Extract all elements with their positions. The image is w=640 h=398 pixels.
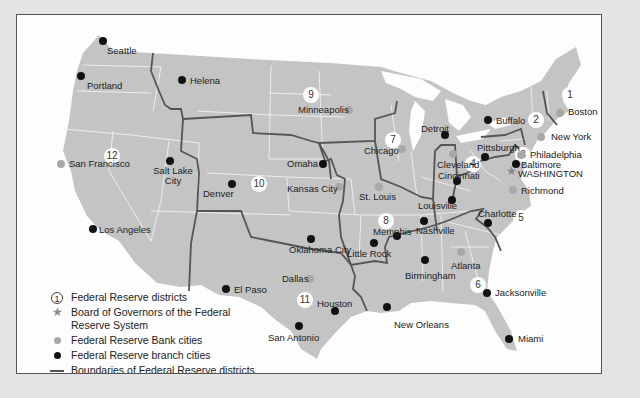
branch-city-dot <box>505 335 513 343</box>
branch-city-dot <box>481 153 489 161</box>
legend-label: Federal Reserve districts <box>71 291 187 304</box>
city-label-omaha[interactable]: Omaha <box>287 159 318 169</box>
city-label-seattle[interactable]: Seattle <box>107 46 137 56</box>
branch-city-dot <box>307 235 315 243</box>
city-label-kansas-city[interactable]: Kansas City <box>287 184 338 194</box>
branch-city-dot <box>319 160 327 168</box>
legend-item-board: ★ Board of Governors of the Federal Rese… <box>49 306 271 332</box>
legend-item-bank-cities: Federal Reserve Bank cities <box>49 334 271 347</box>
city-label-cincinnati[interactable]: Cincinnati <box>438 171 480 181</box>
branch-city-dot <box>484 219 492 227</box>
city-label-birmingham[interactable]: Birmingham <box>405 271 456 281</box>
city-label-buffalo[interactable]: Buffalo <box>496 116 525 126</box>
branch-city-dot <box>295 322 303 330</box>
district-number-1: 1 <box>562 87 578 103</box>
city-label-dallas[interactable]: Dallas <box>282 274 308 284</box>
legend-label: Federal Reserve Bank cities <box>71 334 202 347</box>
city-label-charlotte[interactable]: Charlotte <box>478 209 517 219</box>
city-label-pittsburgh[interactable]: Pittsburgh <box>477 143 520 153</box>
branch-city-dot <box>77 72 85 80</box>
branch-city-dot <box>166 157 174 165</box>
city-label-washington[interactable]: WASHINGTON <box>518 169 583 179</box>
city-label-los-angeles[interactable]: Los Angeles <box>99 225 151 235</box>
branch-city-dot <box>178 76 186 84</box>
branch-city-dot <box>421 256 429 264</box>
legend-label: Board of Governors of the Federal Reserv… <box>71 306 251 332</box>
city-label-chicago[interactable]: Chicago <box>364 146 399 156</box>
city-label-richmond[interactable]: Richmond <box>521 186 564 196</box>
boundary-line-icon <box>50 370 64 372</box>
city-label-salt-lake-city[interactable]: Salt Lake City <box>153 166 193 186</box>
city-label-miami[interactable]: Miami <box>518 334 543 344</box>
bank-city-dot <box>449 150 457 158</box>
legend-item-districts: 1 Federal Reserve districts <box>49 291 271 304</box>
map-frame: 1 2 3 4 5 6 7 8 9 10 11 12 Boston New Yo… <box>16 14 602 374</box>
city-label-new-york[interactable]: New York <box>551 132 591 142</box>
legend-item-boundaries: Boundaries of Federal Reserve districts … <box>49 364 271 374</box>
branch-city-dot <box>484 116 492 124</box>
circled-number-icon: 1 <box>51 292 63 304</box>
city-label-san-antonio[interactable]: San Antonio <box>268 333 319 343</box>
city-label-jacksonville[interactable]: Jacksonville <box>495 288 546 298</box>
branch-city-dot <box>99 37 107 45</box>
black-dot-icon <box>54 352 61 359</box>
legend-label: Federal Reserve branch cities <box>71 349 210 362</box>
bank-city-dot <box>375 183 383 191</box>
bank-city-dot <box>537 133 545 141</box>
bank-city-dot <box>457 248 465 256</box>
city-label-helena[interactable]: Helena <box>190 76 220 86</box>
branch-city-dot <box>383 303 391 311</box>
legend: 1 Federal Reserve districts ★ Board of G… <box>49 291 271 374</box>
city-label-oklahoma-city[interactable]: Oklahoma City <box>289 245 351 255</box>
bank-city-dot <box>509 186 517 194</box>
district-number-2: 2 <box>528 112 544 128</box>
gray-dot-icon <box>54 337 61 344</box>
city-label-memphis[interactable]: Memphis <box>373 227 412 237</box>
branch-city-dot <box>228 180 236 188</box>
bank-city-dot <box>57 160 65 168</box>
star-icon: ★ <box>52 306 63 319</box>
city-label-new-orleans[interactable]: New Orleans <box>394 320 449 330</box>
city-label-minneapolis[interactable]: Minneapolis <box>298 105 349 115</box>
district-number-10: 10 <box>251 176 267 192</box>
district-number-11: 11 <box>297 292 313 308</box>
bank-city-dot <box>398 145 406 153</box>
city-label-san-francisco[interactable]: San Francisco <box>69 159 130 169</box>
city-label-houston[interactable]: Houston <box>317 299 352 309</box>
legend-item-branch-cities: Federal Reserve branch cities <box>49 349 271 362</box>
city-label-baltimore[interactable]: Baltimore <box>521 160 561 170</box>
city-label-cleveland[interactable]: Cleveland <box>437 160 479 170</box>
branch-city-dot <box>370 239 378 247</box>
city-label-nashville[interactable]: Nashville <box>416 226 455 236</box>
city-label-denver[interactable]: Denver <box>203 189 234 199</box>
branch-city-dot <box>420 217 428 225</box>
city-label-little-rock[interactable]: Little Rock <box>347 249 391 259</box>
district-number-9: 9 <box>303 87 319 103</box>
city-label-detroit[interactable]: Detroit <box>421 124 449 134</box>
branch-city-dot <box>89 225 97 233</box>
branch-city-dot <box>483 289 491 297</box>
city-label-st-louis[interactable]: St. Louis <box>359 192 396 202</box>
city-label-portland[interactable]: Portland <box>87 81 122 91</box>
legend-label: Boundaries of Federal Reserve districts … <box>71 364 271 374</box>
branch-city-dot <box>512 160 520 168</box>
city-label-boston[interactable]: Boston <box>568 107 598 117</box>
city-label-louisville[interactable]: Louisville <box>418 201 457 211</box>
bank-city-dot <box>556 109 564 117</box>
